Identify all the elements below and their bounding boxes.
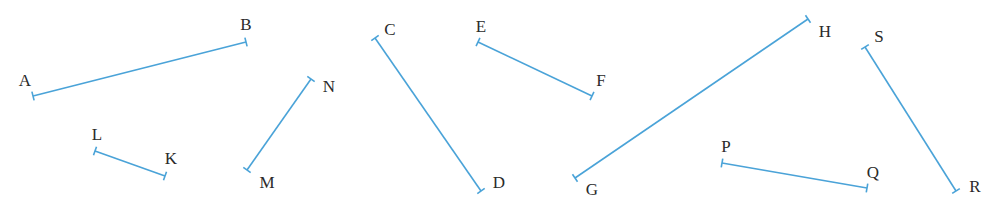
segment-line (247, 79, 311, 170)
endpoint-tick-a (32, 92, 34, 101)
endpoint-tick-n (307, 76, 314, 81)
segment-line (478, 42, 592, 96)
segment-lk (93, 147, 166, 180)
point-label-q: Q (867, 164, 879, 181)
endpoint-tick-d (477, 188, 484, 193)
point-label-k: K (165, 150, 177, 167)
segment-line (575, 19, 808, 178)
endpoint-tick-m (243, 167, 250, 172)
segment-pq (721, 159, 868, 193)
endpoint-tick-h (805, 15, 810, 22)
point-label-d: D (493, 174, 505, 191)
point-label-b: B (240, 16, 251, 33)
point-label-p: P (721, 138, 730, 155)
point-label-h: H (819, 23, 831, 40)
segment-cd (371, 35, 484, 193)
segment-line (722, 163, 867, 188)
point-label-c: C (384, 21, 395, 38)
point-label-n: N (323, 78, 335, 95)
endpoint-tick-b (245, 38, 247, 47)
point-label-l: L (92, 126, 102, 143)
point-label-e: E (476, 18, 486, 35)
point-label-g: G (586, 181, 598, 198)
segment-line (95, 151, 165, 176)
point-label-r: R (969, 178, 980, 195)
endpoint-tick-c (371, 35, 378, 40)
endpoint-tick-q (866, 184, 868, 193)
endpoint-tick-r (952, 189, 960, 194)
endpoint-tick-p (721, 159, 723, 168)
point-label-s: S (874, 28, 883, 45)
point-label-f: F (596, 72, 605, 89)
segment-nm (243, 76, 314, 172)
segment-line (375, 38, 481, 191)
segment-line (33, 42, 246, 96)
segment-ef (476, 38, 594, 100)
point-label-a: A (19, 72, 31, 89)
endpoint-tick-g (572, 174, 577, 181)
segment-gh (572, 15, 810, 181)
point-label-m: M (259, 174, 274, 191)
endpoint-tick-s (861, 45, 869, 50)
segment-ab (32, 38, 247, 101)
